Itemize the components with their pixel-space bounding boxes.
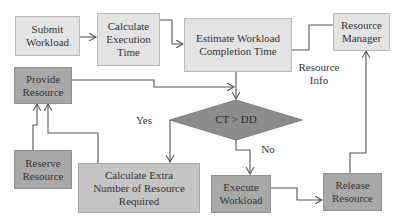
release-resource-label: Release Resource [324,179,381,205]
no-label: No [258,143,278,156]
submit-workload-node: Submit Workload [15,16,80,56]
submit-workload-label: Submit Workload [16,23,79,49]
provide-resource-node: Provide Resource [14,67,72,104]
reserve-resource-label: Reserve Resource [15,157,71,183]
resource-manager-node: Resource Manager [333,13,390,51]
calculate-execution-time-label: Calculate Execution Time [98,20,159,59]
calculate-execution-time-node: Calculate Execution Time [97,13,160,66]
execute-workload-node: Execute Workload [211,175,271,213]
provide-resource-label: Provide Resource [15,73,71,99]
execute-workload-label: Execute Workload [212,181,270,207]
decision-label: CT > DD [196,113,276,125]
calculate-extra-label: Calculate Extra Number of Resource Requi… [87,169,191,208]
calculate-extra-node: Calculate Extra Number of Resource Requi… [78,163,200,213]
resource-manager-label: Resource Manager [334,19,389,45]
estimate-completion-time-label: Estimate Workload Completion Time [191,32,285,58]
resource-info-label: Resource Info [295,61,343,87]
release-resource-node: Release Resource [323,173,382,211]
reserve-resource-node: Reserve Resource [14,150,72,189]
yes-label: Yes [130,114,158,127]
estimate-completion-time-node: Estimate Workload Completion Time [184,18,292,72]
